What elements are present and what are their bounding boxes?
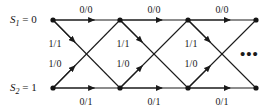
state-node [253, 17, 258, 22]
state-label-s2: S2 = 1 [10, 81, 37, 96]
top-edge-label: 0/0 [143, 4, 165, 15]
state-node [185, 17, 190, 22]
state-value-s2: = 1 [20, 81, 37, 93]
down-diagonal-label: 1/1 [112, 38, 134, 49]
state-label-s1: S1 = 0 [10, 13, 37, 28]
down-diagonal-label: 1/1 [44, 38, 66, 49]
trellis-graph-svg [0, 0, 270, 109]
state-node [117, 17, 122, 22]
trellis-diagram-figure: S1 = 0 S2 = 1 0/00/00/00/10/10/11/11/11/… [0, 0, 270, 109]
bottom-edge-label: 0/1 [211, 96, 233, 107]
down-diagonal-label: 1/1 [180, 38, 202, 49]
state-node [117, 85, 122, 90]
bottom-edge-label: 0/1 [143, 96, 165, 107]
up-diagonal-label: 1/0 [112, 58, 134, 69]
continuation-ellipsis: ••• [240, 47, 259, 62]
state-value-s1: = 0 [20, 13, 37, 25]
bottom-edge-label: 0/1 [75, 96, 97, 107]
top-edge-label: 0/0 [211, 4, 233, 15]
state-node [50, 17, 55, 22]
up-diagonal-label: 1/0 [44, 58, 66, 69]
state-node [50, 85, 55, 90]
state-node [185, 85, 190, 90]
state-node [253, 85, 258, 90]
up-diagonal-label: 1/0 [180, 58, 202, 69]
top-edge-label: 0/0 [75, 4, 97, 15]
up-diagonal-edges [53, 20, 256, 88]
